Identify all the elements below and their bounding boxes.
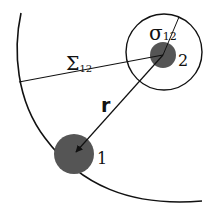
Sigma-label: Σ12 (66, 52, 92, 74)
r-label: r (101, 94, 111, 116)
particle-1-label: 1 (97, 149, 107, 168)
diagram-canvas: σ12 Σ12 r 1 2 (0, 0, 215, 214)
sigma-label: σ12 (149, 21, 177, 45)
particle-1 (54, 134, 94, 174)
particle-2-label: 2 (178, 51, 188, 70)
